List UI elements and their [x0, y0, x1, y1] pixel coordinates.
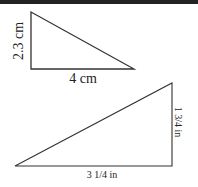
label-4-cm: 4 cm [69, 71, 97, 86]
label-2-3-cm: 2.3 cm [11, 22, 26, 60]
diagram-canvas: 2.3 cm 4 cm 1 3/4 in 3 1/4 in [0, 0, 198, 187]
label-1-3-4-in: 1 3/4 in [173, 107, 184, 138]
triangle-cm [31, 12, 134, 69]
triangles-figure: 2.3 cm 4 cm 1 3/4 in 3 1/4 in [0, 0, 198, 187]
triangle-in [15, 83, 172, 166]
label-3-1-4-in: 3 1/4 in [87, 169, 118, 180]
